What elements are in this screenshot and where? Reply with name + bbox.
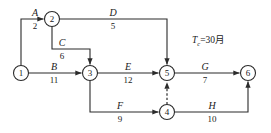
- tc-value: =30月: [200, 35, 225, 45]
- network-diagram-svg: A 2 B 11 C 6 D 5 E 12 F 9 G 7 H 10 1 2 3: [0, 0, 271, 133]
- activity-d-name: D: [108, 7, 117, 18]
- node-4: 4: [160, 105, 175, 120]
- activity-g-duration: 7: [203, 75, 208, 85]
- activity-a-name: A: [31, 7, 39, 18]
- activity-f-duration: 9: [118, 114, 123, 124]
- node-1-label: 1: [19, 68, 24, 78]
- node-5-label: 5: [165, 68, 170, 78]
- node-3: 3: [83, 66, 98, 81]
- activity-a-duration: 2: [33, 21, 38, 31]
- node-5: 5: [160, 66, 175, 81]
- edge-activity-f: [90, 81, 159, 113]
- network-diagram-canvas: A 2 B 11 C 6 D 5 E 12 F 9 G 7 H 10 1 2 3: [0, 0, 271, 133]
- node-3-label: 3: [88, 68, 93, 78]
- node-2: 2: [45, 12, 60, 27]
- node-2-label: 2: [50, 14, 55, 24]
- node-4-label: 4: [165, 107, 170, 117]
- activity-g-name: G: [201, 61, 208, 72]
- activity-f-name: F: [116, 100, 124, 111]
- node-1: 1: [14, 66, 29, 81]
- activity-b-duration: 11: [50, 75, 59, 85]
- activity-e-name: E: [124, 61, 131, 72]
- activity-e-duration: 12: [124, 75, 133, 85]
- activity-c-name: C: [59, 37, 66, 48]
- total-duration-note: Tc=30月: [192, 32, 225, 47]
- activity-d-duration: 5: [111, 21, 116, 31]
- activity-c-duration: 6: [60, 51, 65, 61]
- node-6: 6: [241, 66, 256, 81]
- activity-b-name: B: [51, 61, 57, 72]
- activity-h-name: H: [207, 100, 216, 111]
- node-6-label: 6: [246, 68, 251, 78]
- activity-h-duration: 10: [208, 114, 218, 124]
